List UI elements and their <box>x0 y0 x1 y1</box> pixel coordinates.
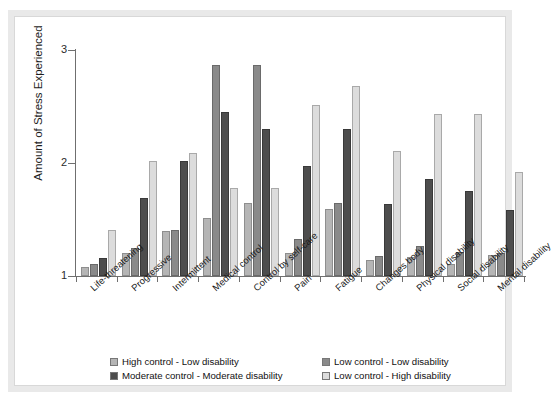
bar <box>221 112 229 276</box>
x-axis-tick <box>320 276 321 282</box>
y-axis-title: Amount of Stress Experienced <box>32 8 44 198</box>
x-axis-tick <box>280 276 281 282</box>
bar <box>212 65 220 276</box>
bar <box>262 129 270 276</box>
bar <box>312 105 320 276</box>
bar <box>465 191 473 276</box>
x-axis-tick <box>361 276 362 282</box>
bar <box>303 166 311 276</box>
y-axis-tick-label: 1 <box>43 270 67 281</box>
x-axis-tick <box>198 276 199 282</box>
bar <box>343 129 351 276</box>
x-axis-tick <box>402 276 403 282</box>
bar <box>506 210 514 276</box>
bar <box>384 204 392 276</box>
y-axis-tick-label: 3 <box>43 44 67 55</box>
bar <box>81 267 89 276</box>
legend-item-low-control-low-disability[interactable]: Low control - Low disability <box>322 357 449 367</box>
chart-legend: High control - Low disability Low contro… <box>110 357 450 385</box>
bar <box>189 153 197 276</box>
legend-label: High control - Low disability <box>122 357 239 367</box>
x-axis-tick <box>443 276 444 282</box>
bar <box>149 161 157 276</box>
x-axis-tick <box>524 276 525 282</box>
bar <box>366 260 374 276</box>
x-axis-tick <box>76 276 77 282</box>
bar <box>171 230 179 276</box>
y-axis-tick <box>68 163 76 164</box>
x-axis-tick <box>483 276 484 282</box>
legend-item-high-control-low-disability[interactable]: High control - Low disability <box>110 357 239 367</box>
bar <box>425 179 433 276</box>
legend-item-low-control-high-disability[interactable]: Low control - High disability <box>322 371 451 381</box>
x-axis-tick <box>117 276 118 282</box>
legend-row-2: Moderate control - Moderate disability L… <box>110 371 450 385</box>
bar <box>375 256 383 276</box>
y-axis-tick-label: 2 <box>43 157 67 168</box>
bar <box>352 86 360 276</box>
legend-swatch-icon <box>110 372 118 380</box>
legend-swatch-icon <box>322 372 330 380</box>
bar <box>474 114 482 276</box>
bar <box>90 264 98 276</box>
legend-item-moderate-control-moderate-disability[interactable]: Moderate control - Moderate disability <box>110 371 283 381</box>
bar <box>325 209 333 276</box>
legend-row-1: High control - Low disability Low contro… <box>110 357 450 371</box>
x-axis-tick <box>239 276 240 282</box>
legend-swatch-icon <box>110 358 118 366</box>
bar <box>434 114 442 276</box>
bar <box>180 161 188 276</box>
bar <box>140 198 148 276</box>
y-axis-tick <box>68 50 76 51</box>
x-axis-tick <box>157 276 158 282</box>
legend-label: Low control - Low disability <box>334 357 449 367</box>
legend-label: Low control - High disability <box>334 371 451 381</box>
legend-swatch-icon <box>322 358 330 366</box>
legend-label: Moderate control - Moderate disability <box>122 371 283 381</box>
figure-inner-border: 123 Amount of Stress Experienced Life-th… <box>14 16 506 386</box>
bar <box>334 203 342 276</box>
y-axis-tick <box>68 276 76 277</box>
bar <box>393 151 401 276</box>
